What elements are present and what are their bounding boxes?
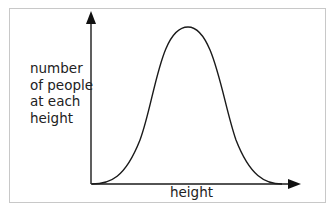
x-axis-arrow-icon bbox=[288, 179, 301, 189]
y-axis-label-line: of people bbox=[30, 77, 93, 94]
y-axis-label: number of people at each height bbox=[30, 60, 93, 126]
distribution-curve bbox=[92, 27, 282, 184]
y-axis-label-line: at each bbox=[30, 93, 93, 110]
y-axis-arrow-icon bbox=[86, 11, 96, 24]
y-axis-label-line: height bbox=[30, 110, 93, 127]
y-axis-label-line: number bbox=[30, 60, 93, 77]
x-axis-label: height bbox=[170, 184, 213, 200]
